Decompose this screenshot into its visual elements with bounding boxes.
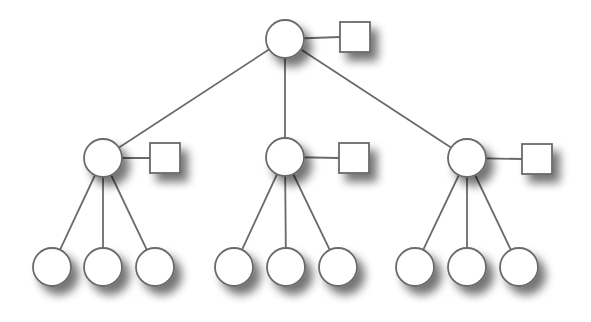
- edge-root-to-mid-left: [103, 39, 285, 158]
- mid-right-leaf-node-circle-2: [500, 248, 538, 286]
- mid-right-leaf-node-circle-1: [448, 248, 486, 286]
- nodes: [33, 20, 552, 286]
- mid-center-attachment-square: [339, 143, 369, 173]
- mid-center-leaf-node-circle-0: [215, 248, 253, 286]
- edge-root-to-mid-right: [285, 39, 467, 158]
- mid-center-leaf-node-circle-2: [319, 248, 357, 286]
- root-attachment-square: [340, 22, 370, 52]
- mid-center-node-circle: [266, 138, 304, 176]
- mid-left-leaf-node-circle-2: [136, 248, 174, 286]
- mid-left-leaf-node-circle-0: [33, 248, 71, 286]
- tree-diagram: [0, 0, 591, 322]
- mid-right-attachment-square: [522, 144, 552, 174]
- mid-center-leaf-node-circle-1: [267, 248, 305, 286]
- mid-right-node-circle: [448, 139, 486, 177]
- mid-left-leaf-node-circle-1: [84, 248, 122, 286]
- mid-left-attachment-square: [150, 143, 180, 173]
- mid-right-leaf-node-circle-0: [396, 248, 434, 286]
- mid-left-node-circle: [84, 139, 122, 177]
- root-node-circle: [266, 20, 304, 58]
